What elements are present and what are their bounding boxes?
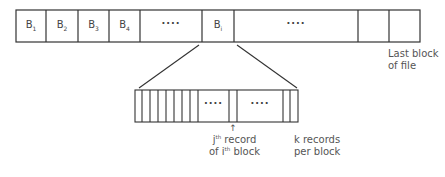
record-ellipsis-2: ···· bbox=[237, 98, 283, 109]
block-b3: B3 bbox=[78, 19, 109, 32]
zoom-lines bbox=[139, 45, 297, 88]
block-ellipsis-1: ···· bbox=[140, 18, 202, 29]
jth-record-label: jth record of ith block bbox=[207, 134, 262, 158]
record-ellipsis-1: ···· bbox=[198, 98, 229, 109]
block-ellipsis-2: ···· bbox=[234, 18, 358, 29]
block-b2: B2 bbox=[46, 19, 78, 32]
block-bi: Bi bbox=[202, 19, 234, 32]
block-b1: B1 bbox=[16, 19, 46, 32]
up-arrow-icon: ↑ bbox=[229, 122, 237, 134]
k-records-label: k records per block bbox=[294, 134, 340, 158]
last-block-label: Last block of file bbox=[388, 48, 439, 72]
block-b4: B4 bbox=[109, 19, 140, 32]
